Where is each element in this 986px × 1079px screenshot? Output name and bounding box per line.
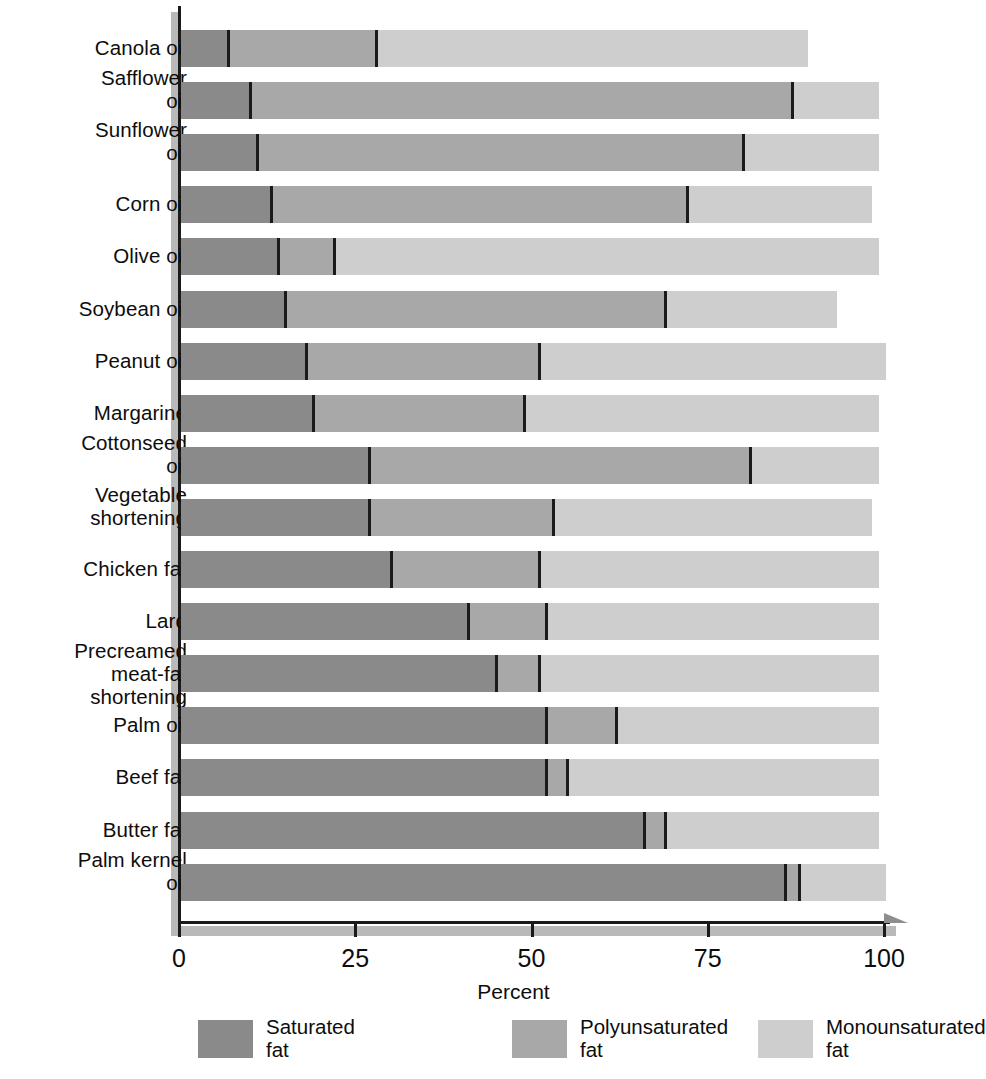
bar-segment-monounsaturated-fat <box>689 186 872 223</box>
bar-segment-polyunsaturated-fat <box>371 499 554 536</box>
category-label: Olive oil <box>17 244 187 267</box>
bar-rows: Canola oilSafflower oilSunflower oilCorn… <box>0 0 967 920</box>
bar-segment-saturated-fat <box>181 82 252 119</box>
stacked-bar[interactable] <box>181 707 879 744</box>
stacked-bar[interactable] <box>181 864 886 901</box>
bar-segment-saturated-fat <box>181 238 280 275</box>
bar-row: Precreamed meat-fat shortening <box>0 647 967 699</box>
legend-item[interactable]: Saturated fat <box>198 1015 355 1061</box>
legend-item[interactable]: Monounsaturated fat <box>758 1015 986 1061</box>
stacked-bar[interactable] <box>181 343 886 380</box>
bar-segment-monounsaturated-fat <box>555 499 872 536</box>
bar-segment-polyunsaturated-fat <box>230 30 378 67</box>
bar-segment-polyunsaturated-fat <box>371 447 752 484</box>
bar-segment-monounsaturated-fat <box>541 655 879 692</box>
stacked-bar[interactable] <box>181 551 879 588</box>
bar-segment-monounsaturated-fat <box>752 447 879 484</box>
x-tick <box>354 924 357 937</box>
bar-segment-saturated-fat <box>181 499 371 536</box>
bar-segment-saturated-fat <box>181 864 787 901</box>
bar-segment-monounsaturated-fat <box>667 812 879 849</box>
category-label: Corn oil <box>17 192 187 215</box>
bar-segment-saturated-fat <box>181 551 393 588</box>
bar-segment-saturated-fat <box>181 759 548 796</box>
x-tick <box>707 924 710 937</box>
bar-segment-saturated-fat <box>181 343 308 380</box>
bar-segment-polyunsaturated-fat <box>252 82 795 119</box>
bar-segment-polyunsaturated-fat <box>548 759 569 796</box>
bar-segment-monounsaturated-fat <box>667 291 836 328</box>
bar-segment-monounsaturated-fat <box>541 343 886 380</box>
legend-label: Monounsaturated fat <box>826 1015 986 1061</box>
stacked-bar[interactable] <box>181 30 808 67</box>
category-label: Margarine <box>17 401 187 424</box>
x-tick-label: 100 <box>854 944 914 973</box>
bar-row: Peanut oil <box>0 335 967 387</box>
bar-row: Palm kernel oil <box>0 856 967 908</box>
bar-segment-saturated-fat <box>181 655 498 692</box>
stacked-bar[interactable] <box>181 291 837 328</box>
legend-swatch <box>198 1020 253 1058</box>
category-label: Butter fat <box>17 818 187 841</box>
bar-row: Vegetable shortening <box>0 491 967 543</box>
category-label: Sunflower oil <box>17 118 187 164</box>
bar-segment-saturated-fat <box>181 812 646 849</box>
bar-segment-monounsaturated-fat <box>801 864 886 901</box>
category-label: Safflower oil <box>17 66 187 112</box>
stacked-bar[interactable] <box>181 447 879 484</box>
stacked-bar[interactable] <box>181 186 872 223</box>
stacked-bar[interactable] <box>181 603 879 640</box>
stacked-bar[interactable] <box>181 499 872 536</box>
bar-row: Beef fat <box>0 751 967 803</box>
category-label: Palm oil <box>17 713 187 736</box>
legend-label: Polyunsaturated fat <box>580 1015 728 1061</box>
bar-segment-saturated-fat <box>181 395 315 432</box>
x-tick-label: 0 <box>149 944 209 973</box>
stacked-bar[interactable] <box>181 812 879 849</box>
stacked-bar[interactable] <box>181 238 879 275</box>
stacked-bar[interactable] <box>181 395 879 432</box>
legend-swatch <box>758 1020 813 1058</box>
bar-segment-polyunsaturated-fat <box>259 134 745 171</box>
bar-row: Olive oil <box>0 230 967 282</box>
stacked-bar[interactable] <box>181 82 879 119</box>
x-axis-line <box>178 921 890 924</box>
bar-segment-polyunsaturated-fat <box>308 343 541 380</box>
category-label: Peanut oil <box>17 349 187 372</box>
stacked-bar[interactable] <box>181 134 879 171</box>
stacked-bar[interactable] <box>181 759 879 796</box>
legend-swatch <box>512 1020 567 1058</box>
bar-segment-saturated-fat <box>181 186 273 223</box>
bar-segment-polyunsaturated-fat <box>548 707 619 744</box>
x-tick-label: 50 <box>502 944 562 973</box>
legend-item[interactable]: Polyunsaturated fat <box>512 1015 728 1061</box>
x-tick <box>531 924 534 937</box>
category-label: Beef fat <box>17 765 187 788</box>
bar-segment-monounsaturated-fat <box>548 603 879 640</box>
bar-row: Sunflower oil <box>0 126 967 178</box>
bar-segment-monounsaturated-fat <box>794 82 879 119</box>
bar-segment-polyunsaturated-fat <box>498 655 540 692</box>
legend-label: Saturated fat <box>266 1015 355 1061</box>
bar-segment-polyunsaturated-fat <box>646 812 667 849</box>
stacked-bar[interactable] <box>181 655 879 692</box>
bar-segment-monounsaturated-fat <box>745 134 879 171</box>
x-axis-shadow <box>171 926 896 936</box>
bar-segment-saturated-fat <box>181 603 470 640</box>
category-label: Canola oil <box>17 36 187 59</box>
x-axis-title: Percent <box>0 980 967 1004</box>
category-label: Lard <box>17 609 187 632</box>
category-label: Palm kernel oil <box>17 848 187 894</box>
bar-row: Palm oil <box>0 699 967 751</box>
bar-segment-polyunsaturated-fat <box>287 291 668 328</box>
chart-legend: Saturated fatPolyunsaturated fatMonounsa… <box>0 1015 967 1079</box>
bar-segment-saturated-fat <box>181 134 259 171</box>
bar-segment-monounsaturated-fat <box>541 551 879 588</box>
category-label: Cottonseed oil <box>17 431 187 477</box>
x-tick-label: 75 <box>678 944 738 973</box>
bar-segment-polyunsaturated-fat <box>393 551 541 588</box>
bar-segment-polyunsaturated-fat <box>273 186 689 223</box>
bar-segment-saturated-fat <box>181 707 548 744</box>
bar-segment-polyunsaturated-fat <box>280 238 336 275</box>
bar-segment-monounsaturated-fat <box>526 395 879 432</box>
